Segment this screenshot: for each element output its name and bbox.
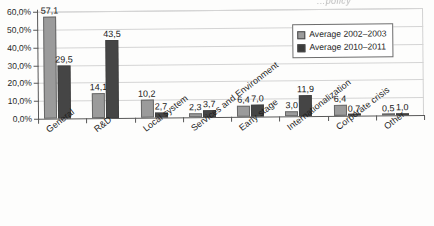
x-axis-tick bbox=[279, 116, 280, 121]
bar[interactable] bbox=[106, 40, 120, 118]
bar-groups: 57,129,514,143,510,22,72,33,76,47,03,011… bbox=[0, 0, 433, 2]
x-axis-tick bbox=[38, 119, 39, 124]
x-axis-tick bbox=[376, 115, 377, 120]
bar[interactable] bbox=[92, 93, 105, 118]
bar-group: 14,143,5 bbox=[85, 11, 134, 118]
bar-value-label: 29,5 bbox=[55, 55, 73, 65]
bar-value-label: 11,9 bbox=[297, 84, 314, 94]
y-axis-tick-label: 40,0% bbox=[7, 42, 31, 52]
legend-label: Average 2010–2011 bbox=[309, 40, 386, 54]
x-axis-tick bbox=[183, 117, 184, 122]
bar-value-label: 10,2 bbox=[138, 88, 156, 98]
legend-item[interactable]: Average 2002–2003 bbox=[297, 27, 386, 41]
cropped-title-fragment: ...policy bbox=[317, 0, 351, 6]
x-axis-tick bbox=[86, 118, 87, 123]
legend-label: Average 2002–2003 bbox=[309, 27, 386, 41]
bar-group: 57,129,5 bbox=[37, 11, 86, 118]
y-axis-tick-label: 30,0% bbox=[7, 60, 31, 70]
bar-value-label: 14,1 bbox=[90, 82, 108, 92]
y-axis-tick-label: 0,0% bbox=[13, 114, 32, 124]
y-axis-tick-label: 60,0% bbox=[7, 7, 31, 17]
x-axis-tick bbox=[135, 118, 136, 123]
bar-value-label: 0,5 bbox=[382, 103, 395, 113]
bar-value-label: 3,0 bbox=[285, 100, 298, 110]
chart-figure: ...policy 0,0%10,0%20,0%30,0%40,0%50,0%6… bbox=[0, 0, 434, 226]
legend-swatch-icon bbox=[297, 44, 305, 52]
category-axis-labels: GeneralR&DLocal systemServices and Envir… bbox=[0, 0, 433, 2]
y-axis-tick-label: 10,0% bbox=[8, 96, 32, 106]
bar-value-label: 43,5 bbox=[103, 29, 121, 39]
bar-value-label: 2,3 bbox=[189, 102, 202, 112]
bar-value-label: 57,1 bbox=[41, 6, 59, 16]
x-axis-tick bbox=[231, 117, 232, 122]
legend-swatch-icon bbox=[297, 31, 305, 39]
gridlines bbox=[0, 0, 433, 2]
chart-legend[interactable]: Average 2002–2003 Average 2010–2011 bbox=[292, 23, 394, 58]
bar[interactable] bbox=[43, 17, 57, 119]
legend-item[interactable]: Average 2010–2011 bbox=[297, 40, 386, 54]
y-axis-tick-label: 50,0% bbox=[7, 25, 31, 35]
bar-value-label: 7,0 bbox=[251, 93, 264, 103]
y-axis-tick-label: 20,0% bbox=[8, 78, 32, 88]
bar[interactable] bbox=[140, 99, 153, 117]
x-axis-tick bbox=[424, 115, 425, 120]
x-axis-tick bbox=[328, 116, 329, 121]
